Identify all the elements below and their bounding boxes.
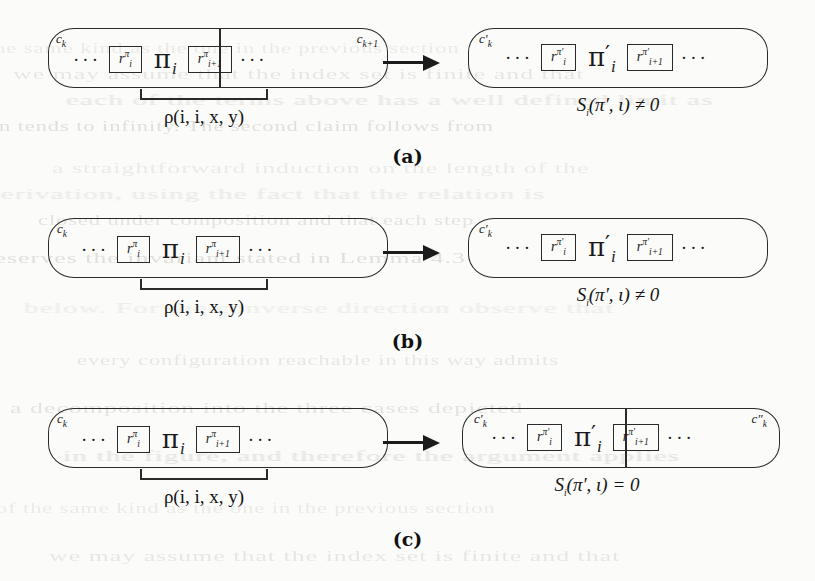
container-tag-c-k-prime: c′k	[479, 31, 492, 47]
panel-c-right-side: c′k c″k ··· rπ′i π′i rπ′i+1 ··· Si(π′, ι…	[462, 408, 780, 478]
arrow-shaft	[383, 251, 427, 254]
panel-b-left-side: ck ··· rπi πi rπi+1 ··· ρ(i, i, x, y)	[48, 218, 388, 288]
pi-prime-symbol: π′i	[574, 424, 601, 450]
register-cell-right[interactable]: rπ′i+1	[627, 44, 673, 71]
panel-b: ck ··· rπi πi rπi+1 ··· ρ(i, i, x, y) c′…	[0, 190, 815, 378]
register-cell-left[interactable]: rπi	[117, 236, 150, 263]
pi-prime-symbol: π′i	[588, 44, 615, 70]
underbrace-tick-right	[266, 469, 268, 478]
underbrace-tick-right	[266, 89, 268, 98]
condition-caption: Si(π′, ι) ≠ 0	[478, 284, 758, 306]
container-tag-c-k: ck	[56, 31, 66, 47]
register-cell-right[interactable]: rπ′i+1	[613, 424, 659, 451]
register-cell-right[interactable]: rπ′i+1	[627, 234, 673, 261]
register-cell-left[interactable]: rπi	[109, 46, 142, 73]
arrow-head	[423, 55, 440, 71]
transition-arrow	[383, 56, 443, 70]
arrow-head	[423, 245, 440, 261]
panel-label-c: (c)	[0, 528, 815, 550]
trailing-ellipsis: ···	[678, 238, 712, 257]
pi-symbol: πi	[162, 426, 184, 452]
leading-ellipsis: ···	[78, 240, 112, 259]
trailing-ellipsis: ···	[237, 50, 271, 69]
underbrace-tick-left	[140, 279, 142, 288]
underbrace-tick-left	[140, 89, 142, 98]
leading-ellipsis: ···	[70, 50, 104, 69]
pi-symbol: πi	[162, 236, 184, 262]
pi-prime-symbol: π′i	[588, 234, 615, 260]
leading-ellipsis: ···	[502, 48, 536, 67]
container-tag-c-k-double-prime: c″k	[752, 411, 767, 427]
panel-a-right-tokens: ··· rπ′i π′i rπ′i+1 ···	[502, 44, 712, 71]
panel-a: ck ck+1 ··· rπi πi rπi+1 ··· ρ(i, i, x, …	[0, 0, 815, 190]
transition-arrow	[383, 436, 443, 450]
panel-c-left-side: ck ··· rπi πi rπi+1 ··· ρ(i, i, x, y)	[48, 408, 388, 478]
arrow-shaft	[383, 61, 427, 64]
container-tag-c-k: ck	[57, 411, 67, 427]
panel-c-right-tokens: ··· rπ′i π′i rπ′i+1 ···	[488, 424, 698, 451]
trailing-ellipsis: ···	[678, 48, 712, 67]
register-cell-left[interactable]: rπ′i	[541, 234, 576, 261]
panel-a-left-side: ck ck+1 ··· rπi πi rπi+1 ··· ρ(i, i, x, …	[48, 28, 388, 98]
underbrace-bar	[140, 98, 268, 100]
container-tag-c-k-plus-1: ck+1	[357, 31, 378, 47]
rho-caption: ρ(i, i, x, y)	[114, 296, 294, 318]
panel-c-left-tokens: ··· rπi πi rπi+1 ···	[78, 426, 279, 453]
container-tag-c-k-prime: c′k	[479, 221, 492, 237]
arrow-head	[423, 435, 440, 451]
pi-symbol: πi	[154, 46, 176, 72]
panel-a-right-side: c′k ··· rπ′i π′i rπ′i+1 ··· Si(π′, ι) ≠ …	[468, 28, 768, 98]
rho-caption: ρ(i, i, x, y)	[114, 486, 294, 508]
register-cell-left[interactable]: rπ′i	[541, 44, 576, 71]
panel-label-b: (b)	[0, 330, 815, 352]
leading-ellipsis: ···	[502, 238, 536, 257]
register-cell-left[interactable]: rπ′i	[527, 424, 562, 451]
transition-arrow	[383, 246, 443, 260]
underbrace-bar	[140, 288, 268, 290]
arrow-shaft	[383, 441, 427, 444]
figure-three-case-diagram: ck ck+1 ··· rπi πi rπi+1 ··· ρ(i, i, x, …	[0, 0, 815, 581]
rho-caption: ρ(i, i, x, y)	[114, 106, 294, 128]
leading-ellipsis: ···	[78, 430, 112, 449]
panel-label-a: (a)	[0, 145, 815, 167]
trailing-ellipsis: ···	[245, 240, 279, 259]
container-tag-c-k-prime: c′k	[474, 411, 487, 427]
register-cell-right[interactable]: rπi+1	[188, 46, 232, 73]
trailing-ellipsis: ···	[664, 428, 698, 447]
condition-caption: Si(π′, ι) = 0	[457, 474, 737, 496]
register-cell-left[interactable]: rπi	[117, 426, 150, 453]
underbrace-tick-right	[266, 279, 268, 288]
container-tag-c-k: ck	[57, 221, 67, 237]
underbrace-bar	[140, 478, 268, 480]
condition-caption: Si(π′, ι) ≠ 0	[478, 94, 758, 116]
underbrace-tick-left	[140, 469, 142, 478]
register-cell-right[interactable]: rπi+1	[196, 236, 240, 263]
register-cell-right[interactable]: rπi+1	[196, 426, 240, 453]
panel-b-right-tokens: ··· rπ′i π′i rπ′i+1 ···	[502, 234, 712, 261]
panel-c: ck ··· rπi πi rπi+1 ··· ρ(i, i, x, y) c′	[0, 378, 815, 581]
panel-b-right-side: c′k ··· rπ′i π′i rπ′i+1 ··· Si(π′, ι) ≠ …	[468, 218, 768, 288]
leading-ellipsis: ···	[488, 428, 522, 447]
panel-b-left-tokens: ··· rπi πi rπi+1 ···	[78, 236, 279, 263]
panel-a-left-tokens: ··· rπi πi rπi+1 ···	[70, 46, 271, 73]
trailing-ellipsis: ···	[245, 430, 279, 449]
